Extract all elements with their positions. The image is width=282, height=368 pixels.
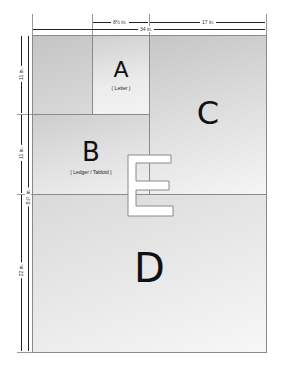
dim-label-a-height: 11 in. bbox=[18, 66, 24, 82]
dim-tick bbox=[92, 14, 93, 35]
dim-tick bbox=[266, 14, 267, 35]
dim-tick bbox=[32, 14, 33, 35]
sheet-a-label: ( Letter ) bbox=[92, 85, 150, 91]
dim-label-a-width: 8½ in. bbox=[111, 19, 129, 25]
sheet-top-left bbox=[32, 35, 93, 115]
dim-label-b-small: 8½ in. bbox=[25, 187, 31, 206]
dim-label-b-height: 11 in. bbox=[18, 145, 24, 161]
sheet-a-letter: A bbox=[92, 58, 150, 82]
dim-label-d-height: 22 in. bbox=[18, 262, 24, 278]
dim-tick bbox=[17, 352, 32, 353]
dim-label-c-width: 17 in. bbox=[200, 19, 216, 25]
dim-tick bbox=[17, 114, 32, 115]
sheet-c-letter: C bbox=[149, 95, 267, 131]
sheet-d-letter: D bbox=[32, 246, 267, 290]
sheet-e-letter-icon bbox=[126, 153, 176, 219]
dim-label-total-width: 34 in. bbox=[138, 26, 154, 32]
